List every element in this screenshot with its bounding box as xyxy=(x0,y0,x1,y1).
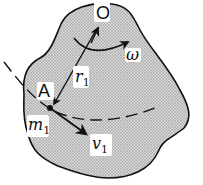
point-a-mass xyxy=(47,105,53,111)
pivot-label-o: O xyxy=(96,3,110,23)
omega-label: ω xyxy=(126,45,139,64)
point-label-a: A xyxy=(38,81,50,101)
rigid-body-diagram: O ω r1 A m1 v1 xyxy=(0,0,203,185)
